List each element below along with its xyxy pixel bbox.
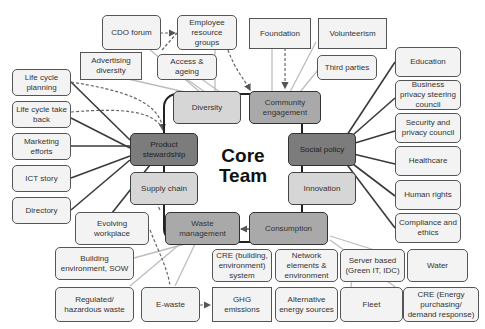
node-employee-resource-groups[interactable]: Employee resource groups xyxy=(177,15,237,50)
node-network-elements-environment[interactable]: Network elements & environment xyxy=(275,249,338,282)
node-server-based[interactable]: Server based (Green IT, IDC) xyxy=(340,249,405,282)
node-evolving-workplace[interactable]: Evolving workplace xyxy=(75,212,149,245)
node-advertising-diversity[interactable]: Advertising diversity xyxy=(80,52,142,80)
node-healthcare[interactable]: Healthcare xyxy=(395,146,461,176)
core-team-title: Core Team xyxy=(213,146,273,186)
node-regulated-hazardous-waste[interactable]: Regulated/ hazardous waste xyxy=(55,287,134,322)
node-building-environment-sow[interactable]: Building environment, SOW xyxy=(55,247,134,280)
core-area-social-policy[interactable]: Social policy xyxy=(288,133,356,166)
node-fleet[interactable]: Fleet xyxy=(340,287,403,322)
node-education[interactable]: Education xyxy=(395,47,461,77)
node-compliance-ethics[interactable]: Compliance and ethics xyxy=(395,213,461,243)
node-cre-building-environment-system[interactable]: CRE (building, environment) system xyxy=(212,249,272,282)
node-foundation[interactable]: Foundation xyxy=(249,18,311,49)
node-human-rights[interactable]: Human rights xyxy=(395,180,461,210)
node-life-cycle-take-back[interactable]: Life cycle take back xyxy=(12,101,71,128)
core-area-product-stewardship[interactable]: Product stewardship xyxy=(130,133,198,166)
node-security-privacy-council[interactable]: Security and privacy council xyxy=(395,113,461,143)
node-cre-energy-purchasing[interactable]: CRE (Energy purchasing/ demand response) xyxy=(403,287,479,322)
core-team-diagram: Core Team Diversity Community engagement… xyxy=(0,0,485,329)
node-life-cycle-planning[interactable]: Life cycle planning xyxy=(12,69,71,96)
core-area-consumption[interactable]: Consumption xyxy=(249,212,328,245)
node-directory[interactable]: Directory xyxy=(12,197,71,224)
node-water[interactable]: Water xyxy=(407,249,468,282)
node-ewaste[interactable]: E-waste xyxy=(141,287,200,322)
node-third-parties[interactable]: Third parties xyxy=(317,55,377,80)
core-area-waste-management[interactable]: Waste management xyxy=(165,212,240,245)
core-area-diversity[interactable]: Diversity xyxy=(173,91,241,124)
node-ghg-emissions[interactable]: GHG emissions xyxy=(212,287,272,322)
core-area-supply-chain[interactable]: Supply chain xyxy=(130,172,198,205)
node-access-ageing[interactable]: Access & ageing xyxy=(157,54,217,80)
node-marketing-efforts[interactable]: Marketing efforts xyxy=(12,133,71,160)
node-alternative-energy-sources[interactable]: Alternative energy sources xyxy=(275,287,338,322)
core-area-community-engagement[interactable]: Community engagement xyxy=(249,91,321,124)
core-area-innovation[interactable]: Innovation xyxy=(288,172,356,205)
node-cdo-forum[interactable]: CDO forum xyxy=(102,15,161,50)
node-business-privacy-steering-council[interactable]: Business privacy steering council xyxy=(395,80,461,110)
node-volunteerism[interactable]: Volunteerism xyxy=(318,18,387,49)
node-ict-story[interactable]: ICT story xyxy=(12,165,71,192)
